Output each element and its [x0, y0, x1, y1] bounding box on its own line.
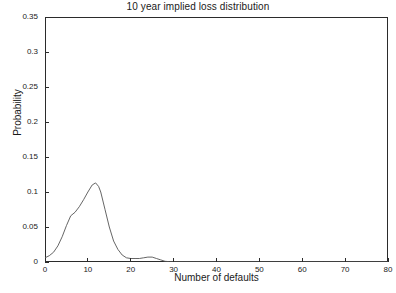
x-tick-mark	[45, 258, 46, 262]
x-tick-mark	[388, 258, 389, 262]
x-axis-label: Number of defaults	[45, 272, 388, 283]
y-tick-label: 0.3	[0, 47, 38, 56]
y-tick-mark	[45, 87, 49, 88]
y-axis-label: Probability	[12, 68, 23, 158]
y-tick-label: 0.1	[0, 187, 38, 196]
y-tick-mark	[45, 122, 49, 123]
plot-canvas	[45, 17, 388, 262]
x-tick-mark	[87, 258, 88, 262]
x-tick-mark	[259, 258, 260, 262]
y-tick-label: 0.35	[0, 12, 38, 21]
x-tick-mark	[173, 258, 174, 262]
loss-distribution-line	[45, 183, 388, 262]
y-tick-label: 0.05	[0, 222, 38, 231]
x-tick-mark	[130, 258, 131, 262]
y-tick-mark	[45, 17, 49, 18]
y-tick-mark	[45, 157, 49, 158]
y-tick-mark	[45, 262, 49, 263]
y-tick-mark	[45, 227, 49, 228]
chart-title: 10 year implied loss distribution	[0, 1, 396, 12]
x-tick-mark	[216, 258, 217, 262]
y-tick-mark	[45, 192, 49, 193]
chart-figure: 10 year implied loss distribution 00.050…	[0, 0, 396, 293]
y-tick-mark	[45, 52, 49, 53]
x-tick-mark	[302, 258, 303, 262]
x-tick-mark	[345, 258, 346, 262]
